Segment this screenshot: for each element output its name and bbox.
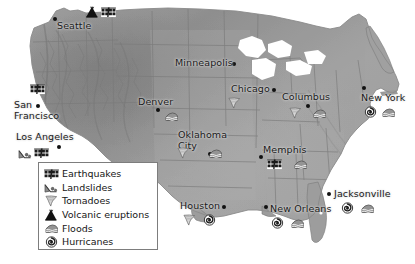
city-label-seattle[interactable]: Seattle xyxy=(57,20,91,31)
flood-icon xyxy=(43,222,59,235)
city-dot-jacksonville[interactable] xyxy=(327,192,331,196)
city-label-chicago[interactable]: Chicago xyxy=(231,83,270,94)
legend-label: Landslides xyxy=(62,181,112,194)
city-label-columbus[interactable]: Columbus xyxy=(282,91,330,102)
city-dot-memphis[interactable] xyxy=(259,155,263,159)
flood-icon-jacksonville xyxy=(360,202,375,214)
legend-label: Floods xyxy=(62,222,93,235)
city-label-minneapolis[interactable]: Minneapolis xyxy=(175,57,233,68)
earthquake-icon-memphis xyxy=(267,158,282,170)
city-dot-chicago[interactable] xyxy=(272,88,276,92)
hazard-legend: EarthquakesLandslidesTornadoesVolcanic e… xyxy=(38,162,158,250)
tornado-icon-chicago xyxy=(227,97,242,109)
legend-row-hurricanes: Hurricanes xyxy=(43,235,153,249)
city-label-memphis[interactable]: Memphis xyxy=(263,144,307,155)
earthquake-icon xyxy=(43,167,59,180)
hurricane-icon-new-york xyxy=(363,106,378,118)
hurricane-icon-houston xyxy=(202,214,217,226)
city-label-denver[interactable]: Denver xyxy=(138,96,173,107)
flood-icon-columbus xyxy=(312,107,327,119)
volcano-icon xyxy=(43,208,59,221)
tornado-icon-houston xyxy=(182,214,197,226)
hazard-map: SeattleSan FranciscoLos AngelesDenverMin… xyxy=(0,0,415,264)
legend-label: Earthquakes xyxy=(62,167,121,180)
city-dot-houston[interactable] xyxy=(222,205,226,209)
earthquake-icon-los-angeles xyxy=(34,147,49,159)
city-dot-los-angeles[interactable] xyxy=(57,145,61,149)
landslide-icon xyxy=(43,181,59,194)
legend-label: Tornadoes xyxy=(62,194,110,207)
hurricane-icon xyxy=(43,235,59,248)
city-dot-new-orleans[interactable] xyxy=(264,205,268,209)
city-dot-denver[interactable] xyxy=(156,108,160,112)
hurricane-icon-jacksonville xyxy=(340,202,355,214)
flood-icon-memphis xyxy=(293,158,308,170)
tornado-icon-columbus xyxy=(288,107,303,119)
city-label-houston[interactable]: Houston xyxy=(180,200,220,211)
flood-icon-new-york xyxy=(381,106,396,118)
flood-icon-denver xyxy=(164,110,179,122)
city-label-jacksonville[interactable]: Jacksonville xyxy=(334,188,391,199)
hurricane-icon-new-orleans xyxy=(270,217,285,229)
legend-row-landslides: Landslides xyxy=(43,181,153,195)
legend-row-volcanic-eruptions: Volcanic eruptions xyxy=(43,208,153,222)
city-dot-new-york[interactable] xyxy=(362,86,366,90)
landslide-icon-los-angeles xyxy=(18,147,33,159)
flood-icon-new-orleans xyxy=(290,217,305,229)
earthquake-icon-seattle xyxy=(101,6,116,18)
legend-label: Hurricanes xyxy=(62,235,113,248)
earthquake-icon-san-francisco xyxy=(30,83,45,95)
city-label-new-orleans[interactable]: New Orleans xyxy=(270,203,332,214)
legend-label: Volcanic eruptions xyxy=(62,208,149,221)
volcano-icon-seattle xyxy=(85,6,100,18)
tornado-icon-oklahoma-city xyxy=(176,147,191,159)
legend-row-earthquakes: Earthquakes xyxy=(43,167,153,181)
flood-icon-oklahoma-city xyxy=(208,147,223,159)
city-label-san-francisco[interactable]: San Francisco xyxy=(14,99,76,121)
city-label-los-angeles[interactable]: Los Angeles xyxy=(16,131,74,142)
tornado-icon xyxy=(43,194,59,207)
legend-row-floods: Floods xyxy=(43,221,153,235)
city-label-new-york[interactable]: New York xyxy=(361,92,405,103)
city-dot-columbus[interactable] xyxy=(306,104,310,108)
legend-row-tornadoes: Tornadoes xyxy=(43,194,153,208)
